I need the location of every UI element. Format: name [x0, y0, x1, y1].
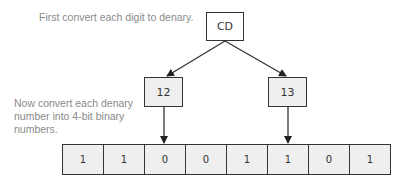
hex-value-box: CD: [206, 12, 244, 41]
bit-cell: 1: [227, 145, 268, 174]
bit-cell: 1: [104, 145, 145, 174]
step1-caption: First convert each digit to denary.: [39, 11, 193, 24]
binary-row: 1 1 0 0 1 1 0 1: [62, 144, 391, 175]
bit-cell: 0: [309, 145, 350, 174]
denary-value-label: 12: [157, 86, 171, 99]
bit-cell: 1: [268, 145, 309, 174]
arrow-cd-to-13: [225, 41, 286, 76]
step2-caption: Now convert each denary number into 4-bi…: [14, 97, 139, 136]
denary-box-12: 12: [144, 77, 183, 107]
bit-cell: 0: [186, 145, 227, 174]
bit-cell: 0: [145, 145, 186, 174]
denary-value-label: 13: [281, 86, 295, 99]
bit-cell: 1: [350, 145, 390, 174]
denary-box-13: 13: [268, 77, 307, 107]
bit-cell: 1: [63, 145, 104, 174]
hex-value-label: CD: [217, 20, 233, 33]
arrow-cd-to-12: [167, 41, 225, 76]
